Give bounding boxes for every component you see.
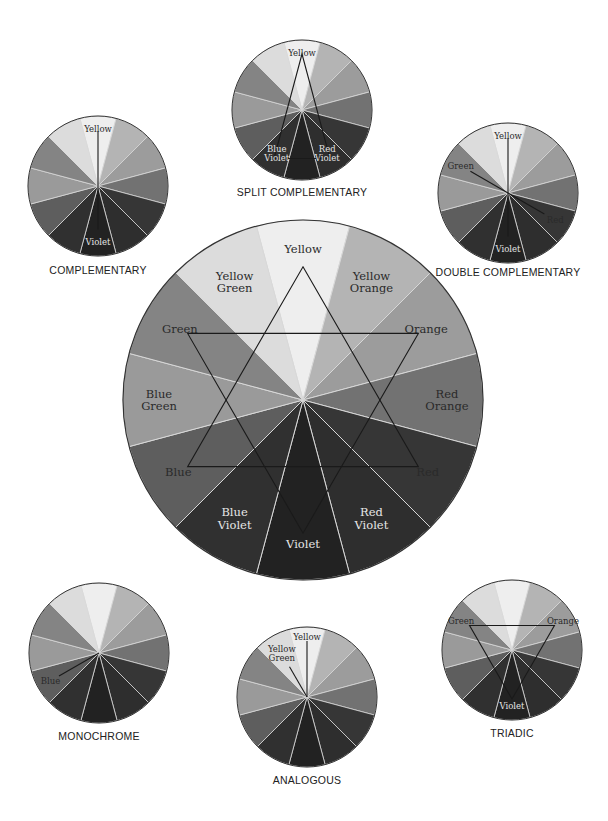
label-yellow: Yellow [292,632,321,642]
scheme-analogous: YellowYellowGreenANALOGOUS [237,627,377,786]
label-yellow-green: YellowGreen [267,644,296,663]
label-violet: Violet [285,537,320,551]
label-blue: Blue [41,676,60,686]
label-violet: Violet [85,237,112,247]
label-yellow: Yellow [287,48,316,58]
label-yellow-green: YellowGreen [215,269,254,295]
color-scheme-diagram: YellowYellowOrangeOrangeRedOrangeRedRedV… [0,0,608,821]
main-color-wheel: YellowYellowOrangeOrangeRedOrangeRedRedV… [123,220,483,580]
scheme-split-complementary: YellowBlueVioletRedVioletSPLIT COMPLEMEN… [232,40,372,198]
monochrome-caption: MONOCHROME [58,730,139,742]
label-yellow: Yellow [83,124,112,134]
triadic-caption: TRIADIC [490,727,534,739]
label-yellow: Yellow [493,131,522,141]
split-complementary-caption: SPLIT COMPLEMENTARY [237,186,367,198]
label-orange: Orange [404,322,448,336]
complementary-caption: COMPLEMENTARY [49,264,146,276]
scheme-double-complementary: YellowGreenRedVioletDOUBLE COMPLEMENTARY [436,123,581,278]
double-complementary-caption: DOUBLE COMPLEMENTARY [436,266,581,278]
label-violet: Violet [499,701,526,711]
label-blue-violet: BlueViolet [263,144,290,163]
label-red: Red [416,465,439,479]
label-yellow: Yellow [283,242,322,256]
label-blue-violet: BlueViolet [217,505,252,531]
label-blue: Blue [165,465,192,479]
label-green: Green [448,161,475,171]
label-orange: Orange [547,616,579,626]
label-blue-green: BlueGreen [141,387,177,413]
analogous-caption: ANALOGOUS [273,774,341,786]
label-yellow-orange: YellowOrange [350,269,394,295]
label-violet: Violet [495,244,522,254]
scheme-complementary: YellowVioletCOMPLEMENTARY [28,116,168,276]
label-green: Green [162,322,198,336]
label-red: Red [547,215,564,225]
scheme-triadic: GreenOrangeVioletTRIADIC [442,580,582,739]
label-green: Green [448,616,475,626]
scheme-monochrome: BlueMONOCHROME [29,583,169,742]
